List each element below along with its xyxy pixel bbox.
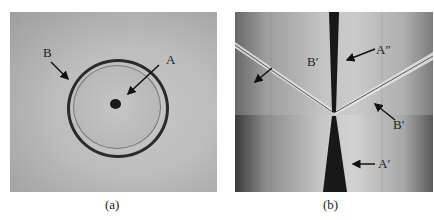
- label-A-prime: A′: [378, 156, 390, 172]
- label-B: B: [43, 45, 52, 61]
- label-A: A: [166, 52, 175, 68]
- arrows-a: [10, 12, 217, 192]
- label-B-prime-right: B′: [393, 117, 405, 133]
- label-B-prime-left: B′: [307, 54, 319, 70]
- panel-b-image: [235, 12, 433, 192]
- caption-b: (b): [323, 197, 338, 213]
- panel-a-image: [10, 12, 217, 192]
- shock-pattern: [235, 12, 433, 192]
- label-A-double-prime: A″: [376, 42, 391, 58]
- caption-a: (a): [105, 197, 119, 213]
